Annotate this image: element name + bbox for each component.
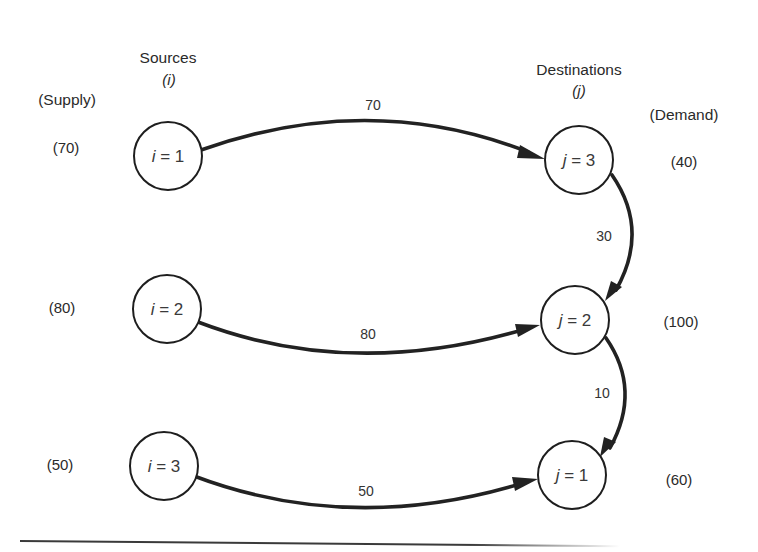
transportation-network-diagram: i = 1 i = 2 i = 3 j = 3 j = 2 [0, 0, 758, 552]
demand-value-j3: (40) [671, 153, 698, 171]
demand-value-j2: (100) [663, 313, 698, 331]
supply-value-i2: (80) [49, 299, 76, 317]
sources-header: Sources [140, 49, 197, 67]
supply-value-i3: (50) [47, 456, 74, 474]
supply-value-i1: (70) [53, 139, 80, 157]
destination-node-j2: j = 2 [541, 286, 609, 354]
network-canvas: i = 1 i = 2 i = 3 j = 3 j = 2 [0, 0, 758, 552]
flow-edge-i1-j3 [201, 120, 528, 152]
svg-text:j = 1: j = 1 [554, 466, 589, 485]
destination-node-j1: j = 1 [538, 441, 606, 509]
arrowhead-icon [515, 324, 540, 337]
source-node-i1: i = 1 [134, 122, 202, 190]
source-node-i3: i = 3 [130, 432, 198, 500]
sources-index-label: (i) [162, 71, 175, 89]
svg-text:i = 1: i = 1 [152, 147, 185, 166]
svg-text:i = 3: i = 3 [148, 457, 181, 476]
arrowhead-icon [517, 145, 545, 159]
flow-label-j3-j2: 30 [596, 227, 612, 245]
flow-label-j2-j1: 10 [594, 384, 610, 402]
flow-label-i3-j1: 50 [358, 482, 374, 500]
demand-value-j1: (60) [666, 471, 693, 489]
flow-label-i2-j2: 80 [360, 325, 376, 343]
supply-header: (Supply) [38, 91, 96, 109]
svg-text:i = 2: i = 2 [151, 300, 184, 319]
source-node-i2: i = 2 [133, 275, 201, 343]
destinations-index-label: (j) [572, 82, 585, 100]
destination-node-j3: j = 3 [545, 126, 613, 194]
destinations-header: Destinations [536, 61, 621, 79]
flow-label-i1-j3: 70 [365, 96, 381, 114]
svg-text:j = 2: j = 2 [557, 311, 592, 330]
flow-edge-j3-j2 [612, 175, 632, 290]
svg-text:j = 3: j = 3 [561, 151, 596, 170]
flow-edge-i3-j1 [194, 476, 520, 508]
demand-header: (Demand) [650, 106, 719, 124]
arrowhead-icon [512, 477, 538, 491]
